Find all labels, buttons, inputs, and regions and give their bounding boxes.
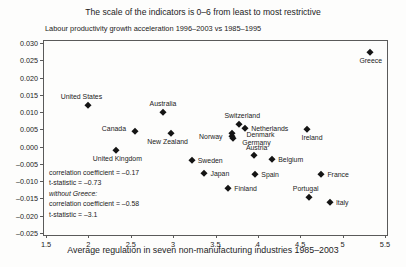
x-axis-title: Average regulation in seven non-manufact… bbox=[0, 245, 406, 255]
data-point-marker-united-states bbox=[85, 102, 91, 108]
y-axis-tick bbox=[40, 112, 43, 113]
chart-subtitle: Labour productivity growth acceleration … bbox=[45, 24, 261, 33]
data-point-marker-germany bbox=[230, 135, 236, 141]
data-point-label-australia: Australia bbox=[150, 100, 177, 107]
data-point-marker-new-zealand bbox=[167, 130, 173, 136]
data-point-label-norway: Norway bbox=[199, 132, 222, 139]
data-point-label-spain: Spain bbox=[261, 171, 279, 178]
data-point-marker-austria bbox=[250, 152, 256, 158]
x-axis-tick bbox=[300, 235, 301, 238]
data-point-marker-sweden bbox=[189, 157, 195, 163]
x-axis-tick bbox=[173, 235, 174, 238]
y-axis-tick bbox=[40, 181, 43, 182]
x-axis-tick bbox=[46, 235, 47, 238]
data-point-label-france: France bbox=[327, 171, 348, 178]
data-point-label-japan: Japan bbox=[210, 169, 229, 176]
y-axis-tick bbox=[40, 43, 43, 44]
data-point-marker-spain bbox=[252, 171, 258, 177]
annotation-line: without Greece: bbox=[49, 189, 139, 199]
plot-area: correlation coefficient = –0.17t-statist… bbox=[43, 40, 388, 236]
y-axis-tick bbox=[40, 233, 43, 234]
annotation-line: correlation coefficient = –0.58 bbox=[49, 199, 139, 209]
data-point-label-denmark: Denmark bbox=[246, 130, 274, 137]
data-point-label-netherlands: Netherlands bbox=[251, 124, 288, 131]
data-point-marker-australia bbox=[160, 109, 166, 115]
y-axis-tick bbox=[40, 198, 43, 199]
y-axis-tick bbox=[40, 147, 43, 148]
y-axis-tick-label: –0.015 bbox=[2, 194, 38, 203]
x-axis-tick bbox=[343, 235, 344, 238]
data-point-label-finland: Finland bbox=[234, 185, 257, 192]
y-axis-tick-label: 0.000 bbox=[2, 143, 38, 152]
chart-title: The scale of the indicators is 0–6 from … bbox=[0, 7, 406, 17]
data-point-label-ireland: Ireland bbox=[301, 134, 322, 141]
y-axis-tick-label: 0.030 bbox=[2, 39, 38, 48]
data-point-marker-belgium bbox=[269, 155, 275, 161]
x-axis-tick bbox=[258, 235, 259, 238]
x-axis-tick bbox=[88, 235, 89, 238]
data-point-label-canada: Canada bbox=[102, 125, 126, 132]
y-axis-tick-label: –0.010 bbox=[2, 177, 38, 186]
data-point-label-united-states: United States bbox=[61, 93, 102, 100]
data-point-label-portugal: Portugal bbox=[293, 185, 319, 192]
y-axis-tick-label: –0.005 bbox=[2, 160, 38, 169]
annotation-line: t-statistic = –0.73 bbox=[49, 178, 139, 188]
data-point-marker-ireland bbox=[304, 126, 310, 132]
data-point-label-switzerland: Switzerland bbox=[224, 112, 260, 119]
y-axis-tick-label: 0.010 bbox=[2, 108, 38, 117]
y-axis-tick bbox=[40, 78, 43, 79]
data-point-marker-united-kingdom bbox=[113, 147, 119, 153]
y-axis-tick-label: 0.025 bbox=[2, 56, 38, 65]
annotation-line: correlation coefficient = –0.17 bbox=[49, 168, 139, 178]
y-axis-tick-label: –0.020 bbox=[2, 212, 38, 221]
x-axis-tick bbox=[216, 235, 217, 238]
data-point-marker-canada bbox=[132, 128, 138, 134]
scatter-chart-figure: The scale of the indicators is 0–6 from … bbox=[0, 0, 406, 267]
x-axis-tick bbox=[385, 235, 386, 238]
y-axis-tick-label: 0.015 bbox=[2, 91, 38, 100]
y-axis-tick-label: –0.025 bbox=[2, 229, 38, 238]
annotation-line: t-statistic = –3.1 bbox=[49, 210, 139, 220]
data-point-label-sweden: Sweden bbox=[198, 157, 223, 164]
y-axis-tick-label: 0.005 bbox=[2, 125, 38, 134]
y-axis-tick bbox=[40, 216, 43, 217]
y-axis-tick bbox=[40, 129, 43, 130]
y-axis-tick bbox=[40, 60, 43, 61]
data-point-marker-italy bbox=[327, 199, 333, 205]
data-point-marker-portugal bbox=[305, 193, 311, 199]
data-point-marker-finland bbox=[225, 185, 231, 191]
y-axis-tick bbox=[40, 164, 43, 165]
data-point-marker-france bbox=[318, 171, 324, 177]
data-point-label-greece: Greece bbox=[359, 57, 382, 64]
data-point-marker-greece bbox=[366, 48, 372, 54]
data-point-marker-japan bbox=[201, 169, 207, 175]
y-axis-tick bbox=[40, 95, 43, 96]
data-point-label-new-zealand: New Zealand bbox=[147, 138, 188, 145]
data-point-label-belgium: Belgium bbox=[278, 155, 303, 162]
data-point-label-italy: Italy bbox=[336, 198, 349, 205]
y-axis-tick-label: 0.020 bbox=[2, 74, 38, 83]
data-point-label-united-kingdom: United Kingdom bbox=[93, 155, 142, 162]
data-point-label-austria: Austria bbox=[246, 144, 267, 151]
x-axis-tick bbox=[131, 235, 132, 238]
annotation-block: correlation coefficient = –0.17t-statist… bbox=[49, 168, 139, 220]
